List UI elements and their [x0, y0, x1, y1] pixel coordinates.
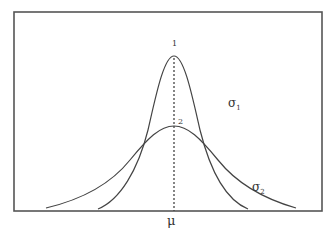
curve-sigma1: [98, 56, 248, 209]
sigma1-label: σ1: [228, 97, 241, 112]
sigma1-symbol: σ: [228, 96, 236, 110]
sigma1-subscript: 1: [236, 104, 240, 112]
sigma2-label: σ2: [252, 181, 265, 196]
mean-label: μ: [167, 214, 175, 227]
plot-frame: [14, 12, 322, 211]
sigma2-symbol: σ: [252, 180, 260, 194]
normal-distributions-diagram: [0, 0, 331, 233]
peak-label-2: 2: [178, 118, 183, 126]
peak-label-1: 1: [172, 40, 177, 48]
sigma2-subscript: 2: [260, 188, 264, 196]
